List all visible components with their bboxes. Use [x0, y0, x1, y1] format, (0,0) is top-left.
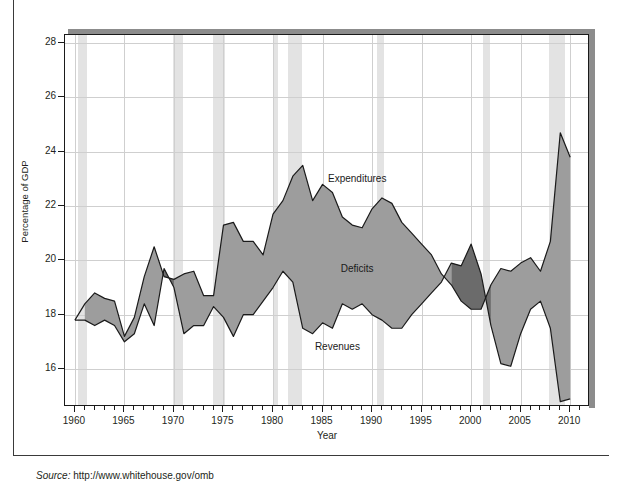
x-tick-mark	[114, 406, 115, 410]
plot-annotation-expenditures: Expenditures	[328, 173, 386, 184]
source-note: Source: http://www.whitehouse.gov/omb	[36, 470, 214, 481]
x-tick-mark	[153, 406, 154, 410]
x-tick-mark	[94, 406, 95, 410]
x-tick-label: 1970	[153, 415, 193, 426]
x-tick-label: 2005	[500, 415, 540, 426]
y-tick-mark	[58, 42, 64, 43]
x-tick-mark	[351, 406, 352, 410]
x-tick-mark	[163, 406, 164, 410]
x-tick-mark	[460, 406, 461, 410]
deficit-fill-region	[174, 165, 451, 336]
plot-annotation-revenues: Revenues	[315, 341, 360, 352]
y-tick-mark	[58, 205, 64, 206]
x-tick-mark	[222, 406, 223, 412]
y-tick-mark	[58, 151, 64, 152]
x-tick-mark	[143, 406, 144, 410]
x-tick-mark	[549, 406, 550, 410]
x-tick-label: 2000	[450, 415, 490, 426]
x-tick-label: 1975	[202, 415, 242, 426]
x-tick-mark	[431, 406, 432, 410]
y-tick-label: 28	[12, 37, 56, 47]
x-tick-mark	[213, 406, 214, 410]
source-url: http://www.whitehouse.gov/omb	[73, 470, 214, 481]
figure-page: ExpendituresDeficitsRevenues 16182022242…	[0, 0, 622, 491]
x-tick-mark	[411, 406, 412, 410]
source-label: Source:	[36, 470, 70, 481]
y-tick-mark	[58, 259, 64, 260]
x-tick-mark	[74, 406, 75, 412]
x-tick-mark	[440, 406, 441, 410]
x-tick-mark	[500, 406, 501, 410]
x-tick-mark	[262, 406, 263, 410]
y-tick-mark	[58, 368, 64, 369]
x-tick-mark	[123, 406, 124, 412]
x-tick-mark	[421, 406, 422, 412]
x-tick-mark	[232, 406, 233, 410]
x-tick-label: 1995	[401, 415, 441, 426]
x-tick-mark	[361, 406, 362, 410]
x-tick-mark	[470, 406, 471, 412]
x-tick-mark	[252, 406, 253, 410]
x-tick-label: 1960	[54, 415, 94, 426]
x-tick-mark	[559, 406, 560, 410]
deficit-fill-region	[491, 133, 570, 402]
x-tick-mark	[272, 406, 273, 412]
x-tick-mark	[133, 406, 134, 410]
y-tick-label: 26	[12, 91, 56, 101]
chart-figure: ExpendituresDeficitsRevenues 16182022242…	[0, 0, 622, 456]
x-tick-label: 1965	[103, 415, 143, 426]
x-tick-mark	[341, 406, 342, 410]
x-tick-mark	[242, 406, 243, 410]
plot-annotation-deficits: Deficits	[341, 263, 374, 274]
x-tick-label: 1980	[252, 415, 292, 426]
x-tick-mark	[302, 406, 303, 410]
x-tick-label: 1985	[302, 415, 342, 426]
x-tick-mark	[312, 406, 313, 410]
x-tick-mark	[401, 406, 402, 410]
x-tick-mark	[173, 406, 174, 412]
plot-shadow-right	[589, 29, 595, 408]
y-tick-mark	[58, 96, 64, 97]
x-tick-mark	[450, 406, 451, 410]
x-tick-mark	[104, 406, 105, 410]
x-tick-mark	[322, 406, 323, 412]
x-tick-mark	[193, 406, 194, 410]
y-axis-title: Percentage of GDP	[19, 142, 30, 262]
y-tick-label: 16	[12, 363, 56, 373]
x-tick-mark	[569, 406, 570, 412]
x-tick-mark	[520, 406, 521, 412]
x-tick-mark	[282, 406, 283, 410]
y-tick-label: 18	[12, 309, 56, 319]
x-tick-label: 2010	[549, 415, 589, 426]
surplus-fill-region	[451, 244, 491, 325]
x-tick-mark	[490, 406, 491, 410]
x-tick-mark	[331, 406, 332, 410]
x-tick-mark	[203, 406, 204, 410]
x-tick-mark	[183, 406, 184, 410]
x-tick-mark	[84, 406, 85, 410]
x-tick-mark	[530, 406, 531, 410]
x-tick-mark	[371, 406, 372, 412]
x-tick-mark	[391, 406, 392, 410]
x-tick-mark	[480, 406, 481, 410]
x-tick-mark	[292, 406, 293, 410]
y-tick-mark	[58, 314, 64, 315]
x-tick-label: 1990	[351, 415, 391, 426]
x-tick-mark	[381, 406, 382, 410]
x-tick-mark	[539, 406, 540, 410]
plot-area: ExpendituresDeficitsRevenues	[64, 34, 589, 406]
x-tick-mark	[579, 406, 580, 410]
x-axis-title: Year	[287, 430, 367, 441]
x-tick-mark	[510, 406, 511, 410]
